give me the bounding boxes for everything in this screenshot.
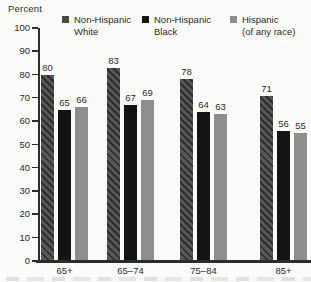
y-tick-label: 0: [4, 256, 30, 265]
bar-group-85+: 715655: [260, 28, 307, 261]
bar-col: 83: [107, 56, 120, 261]
y-tick-label: 60: [4, 116, 30, 125]
bar-non-hispanic-white: [260, 96, 273, 261]
bar-group-75-84: 786463: [180, 28, 227, 261]
bar-col: 63: [214, 102, 227, 261]
bar-value-label: 80: [42, 63, 53, 73]
legend-swatch-non-hispanic-black-icon: [142, 16, 149, 23]
bar-value-label: 69: [142, 88, 153, 98]
bar-value-label: 65: [59, 98, 70, 108]
y-tick-label: 20: [4, 209, 30, 218]
x-axis-line: [36, 260, 311, 263]
y-tick-label: 70: [4, 93, 30, 102]
y-tick-label: 40: [4, 163, 30, 172]
bar-value-label: 55: [295, 121, 306, 131]
bar-chart-figure: Percent Non-Hispanic White Non-Hispanic …: [0, 0, 311, 282]
y-tick-label: 100: [4, 23, 30, 32]
x-tick-label: 65+: [41, 265, 88, 276]
bar-value-label: 56: [278, 119, 289, 129]
y-tick-label: 90: [4, 46, 30, 55]
y-tick-mark: [32, 74, 38, 76]
x-tick-label: 65–74: [107, 265, 154, 276]
y-tick-mark: [32, 97, 38, 99]
bar-group-65+: 806566: [41, 28, 88, 261]
x-tick-label: 85+: [260, 265, 307, 276]
x-tick-label: 75–84: [180, 265, 227, 276]
bar-value-label: 67: [125, 93, 136, 103]
bar-col: 55: [294, 121, 307, 261]
bar-col: 65: [58, 98, 71, 261]
bar-value-label: 63: [215, 102, 226, 112]
bar-value-label: 64: [198, 100, 209, 110]
y-axis-line: [38, 28, 40, 261]
y-tick-mark: [32, 50, 38, 52]
bar-col: 66: [75, 95, 88, 261]
bar-value-label: 71: [261, 84, 272, 94]
bar-value-label: 66: [76, 95, 87, 105]
bar-value-label: 78: [181, 67, 192, 77]
bar-group-65-74: 836769: [107, 28, 154, 261]
bar-col: 69: [141, 88, 154, 261]
y-tick-mark: [32, 27, 38, 29]
bar-col: 71: [260, 84, 273, 261]
bar-non-hispanic-white: [41, 75, 54, 261]
cropped-footnote-strip: [6, 277, 311, 281]
bar-hispanic-of-any-race-: [75, 107, 88, 261]
bar-non-hispanic-white: [180, 79, 193, 261]
plot-area: 0102030405060708090100806566836769786463…: [38, 28, 310, 261]
y-tick-mark: [32, 213, 38, 215]
bar-col: 64: [197, 100, 210, 261]
y-tick-label: 80: [4, 70, 30, 79]
bar-non-hispanic-black: [124, 105, 137, 261]
bar-non-hispanic-black: [277, 131, 290, 261]
bar-non-hispanic-black: [58, 110, 71, 261]
bar-col: 80: [41, 63, 54, 261]
y-tick-mark: [32, 167, 38, 169]
y-tick-label: 50: [4, 140, 30, 149]
y-tick-mark: [32, 190, 38, 192]
y-axis-title: Percent: [8, 3, 42, 14]
y-tick-mark: [32, 120, 38, 122]
y-tick-mark: [32, 237, 38, 239]
y-tick-mark: [32, 144, 38, 146]
y-tick-label: 30: [4, 186, 30, 195]
y-tick-label: 10: [4, 233, 30, 242]
bar-non-hispanic-black: [197, 112, 210, 261]
bar-hispanic-of-any-race-: [294, 133, 307, 261]
bar-col: 67: [124, 93, 137, 261]
bar-hispanic-of-any-race-: [214, 114, 227, 261]
legend-swatch-hispanic-icon: [230, 16, 237, 23]
legend-swatch-non-hispanic-white-icon: [62, 16, 69, 23]
bar-hispanic-of-any-race-: [141, 100, 154, 261]
bar-col: 78: [180, 67, 193, 261]
bar-col: 56: [277, 119, 290, 261]
bar-non-hispanic-white: [107, 68, 120, 261]
bar-value-label: 83: [108, 56, 119, 66]
